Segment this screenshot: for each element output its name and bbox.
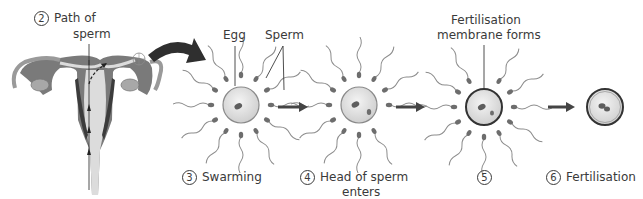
- sperm-callout: Sperm: [265, 28, 304, 42]
- egg-callout: Egg: [223, 28, 246, 42]
- big-curved-arrow: [148, 38, 206, 63]
- path-of-sperm-label: 2Path of: [34, 11, 96, 26]
- step-number-4: 4: [300, 170, 315, 185]
- uterus-illustration: [14, 53, 162, 195]
- step-number-3: 3: [182, 170, 197, 185]
- egg-stage-4: [291, 37, 427, 173]
- step-number-2: 2: [34, 11, 49, 26]
- step-number-5: 5: [477, 170, 492, 185]
- step-number-6: 6: [546, 170, 561, 185]
- stage-5-label: 5: [477, 170, 497, 185]
- stage-6-label: 6Fertilisation: [546, 170, 636, 185]
- stage-4-label-line2: enters: [342, 185, 380, 199]
- path-of-sperm-label-line2: sperm: [73, 27, 111, 41]
- stage-4-label: 4Head of sperm: [300, 170, 408, 185]
- stage-3-label: 3Swarming: [182, 170, 262, 185]
- egg-stage-6: [587, 89, 623, 125]
- membrane-callout-line2: membrane forms: [437, 28, 541, 42]
- membrane-callout-line1: Fertilisation: [451, 13, 521, 27]
